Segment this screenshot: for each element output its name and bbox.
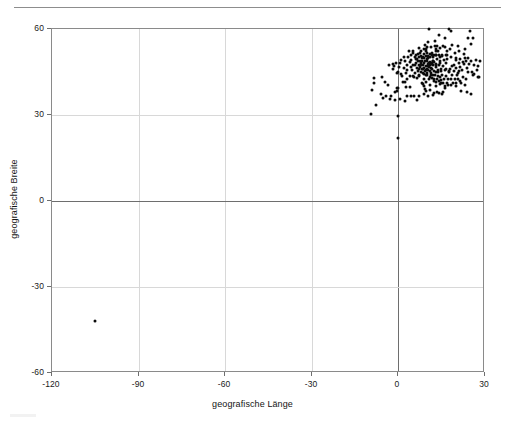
- data-point: [426, 62, 429, 65]
- data-point: [406, 68, 409, 71]
- data-point: [415, 77, 418, 80]
- data-point: [456, 45, 459, 48]
- data-point: [455, 85, 458, 88]
- data-point: [382, 97, 385, 100]
- data-point: [433, 40, 436, 43]
- data-point: [423, 93, 426, 96]
- data-point: [473, 63, 476, 66]
- data-point: [450, 65, 453, 68]
- data-point: [435, 48, 438, 51]
- data-point: [470, 92, 473, 95]
- data-point: [439, 81, 442, 84]
- data-point: [474, 58, 477, 61]
- scan-artifact: [10, 414, 36, 417]
- data-point: [418, 67, 421, 70]
- data-point: [417, 73, 420, 76]
- y-axis-tick: [47, 286, 51, 287]
- data-point: [433, 60, 436, 63]
- data-point: [441, 54, 444, 57]
- data-point: [465, 66, 468, 69]
- plot-area: [51, 28, 484, 372]
- data-point: [428, 28, 431, 31]
- data-point: [463, 47, 466, 50]
- data-point: [434, 71, 437, 74]
- data-point: [411, 68, 414, 71]
- y-axis-title: geografische Breite: [9, 19, 19, 379]
- data-point: [396, 70, 399, 73]
- x-axis-tick-label: -30: [305, 379, 318, 389]
- data-point: [383, 80, 386, 83]
- vertical-gridline: [312, 29, 313, 371]
- data-point: [431, 77, 434, 80]
- data-point: [434, 53, 437, 56]
- data-point: [459, 57, 462, 60]
- data-point: [456, 74, 459, 77]
- data-point: [404, 86, 407, 89]
- data-point: [438, 76, 441, 79]
- data-point: [477, 64, 480, 67]
- data-point: [439, 59, 442, 62]
- top-horizontal-rule: [14, 7, 501, 8]
- y-axis-tick: [47, 114, 51, 115]
- data-point: [465, 59, 468, 62]
- data-point: [386, 84, 389, 87]
- x-axis-tick: [51, 372, 52, 376]
- data-point: [445, 67, 448, 70]
- x-axis-tick: [484, 372, 485, 376]
- data-point: [408, 85, 411, 88]
- data-point: [405, 64, 408, 67]
- data-point: [371, 89, 374, 92]
- data-point: [403, 56, 406, 59]
- data-point: [419, 62, 422, 65]
- x-axis-tick: [224, 372, 225, 376]
- data-point: [449, 78, 452, 81]
- data-point: [395, 90, 398, 93]
- data-point: [432, 94, 435, 97]
- data-point: [384, 94, 387, 97]
- data-point: [412, 75, 415, 78]
- data-point: [407, 50, 410, 53]
- data-point: [395, 61, 398, 64]
- data-point: [461, 75, 464, 78]
- data-point: [458, 65, 461, 68]
- data-point: [427, 41, 430, 44]
- data-point: [410, 65, 413, 68]
- data-point: [404, 59, 407, 62]
- data-point: [463, 83, 466, 86]
- data-point: [425, 90, 428, 93]
- data-point: [406, 94, 409, 97]
- data-point: [439, 46, 442, 49]
- y-axis-tick: [47, 28, 51, 29]
- data-point: [463, 56, 466, 59]
- data-point: [438, 63, 441, 66]
- data-point: [416, 58, 419, 61]
- data-point: [466, 71, 469, 74]
- data-point: [426, 94, 429, 97]
- data-point: [425, 67, 428, 70]
- data-point: [444, 61, 447, 64]
- data-point: [457, 77, 460, 80]
- data-point: [455, 58, 458, 61]
- data-point: [424, 81, 427, 84]
- vertical-gridline: [139, 29, 140, 371]
- scatter-plot-figure: -120-90-60-30030-60-3003060 geografische…: [0, 0, 505, 425]
- data-point: [451, 44, 454, 47]
- data-point: [472, 36, 475, 39]
- data-point: [478, 60, 481, 63]
- data-point: [391, 62, 394, 65]
- data-point: [418, 46, 421, 49]
- x-axis-tick-label: -120: [42, 379, 59, 389]
- data-point: [454, 81, 457, 84]
- data-point: [380, 92, 383, 95]
- x-axis-tick-label: 30: [479, 379, 489, 389]
- data-point: [453, 51, 456, 54]
- data-point: [427, 55, 430, 58]
- y-zero-axis-line: [52, 201, 483, 202]
- data-point: [429, 62, 432, 65]
- data-point: [460, 68, 463, 71]
- x-zero-axis-line: [398, 29, 399, 371]
- data-point: [403, 99, 406, 102]
- x-axis-tick-label: 0: [395, 379, 400, 389]
- data-point: [403, 81, 406, 84]
- data-point: [463, 63, 466, 66]
